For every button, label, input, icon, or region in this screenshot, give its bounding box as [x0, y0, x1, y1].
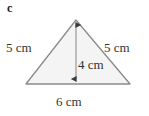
label-left-side: 5 cm — [6, 40, 32, 55]
triangle-figure: c 5 cm 5 cm 4 cm 6 cm — [0, 0, 149, 116]
label-right-side: 5 cm — [104, 40, 130, 55]
label-height: 4 cm — [78, 57, 104, 72]
label-base: 6 cm — [56, 94, 82, 109]
